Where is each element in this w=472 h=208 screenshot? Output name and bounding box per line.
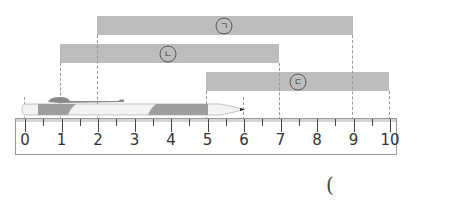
ruler-label-5: 5 <box>203 131 213 149</box>
ruler-tick <box>153 119 154 126</box>
ruler: 0 1 2 3 4 5 6 7 8 9 10 <box>15 118 397 155</box>
ruler-label-10: 10 <box>380 131 399 149</box>
ruler-top-band <box>16 119 396 122</box>
bar-label-nieun: ㄴ <box>160 45 177 62</box>
ruler-label-6: 6 <box>239 131 249 149</box>
bar-label-giyeok: ㄱ <box>216 17 233 34</box>
ruler-label-7: 7 <box>276 131 286 149</box>
guide-line-9 <box>352 35 353 120</box>
ruler-tick <box>299 119 300 126</box>
pen-icon <box>20 94 250 118</box>
ruler-tick <box>80 119 81 126</box>
guide-line-7 <box>279 63 280 120</box>
ruler-label-0: 0 <box>20 131 30 149</box>
ruler-label-3: 3 <box>130 131 140 149</box>
ruler-label-2: 2 <box>93 131 103 149</box>
ruler-tick <box>226 119 227 126</box>
answer-blank: ( <box>326 173 334 197</box>
bar-digeut: ㄷ <box>206 72 389 91</box>
ruler-tick <box>372 119 373 126</box>
bar-nieun: ㄴ <box>60 44 279 63</box>
ruler-tick <box>189 119 190 126</box>
ruler-tick <box>116 119 117 126</box>
ruler-tick <box>335 119 336 126</box>
ruler-tick <box>262 119 263 126</box>
ruler-label-4: 4 <box>166 131 176 149</box>
bar-giyeok: ㄱ <box>97 16 353 35</box>
ruler-label-8: 8 <box>312 131 322 149</box>
bar-label-digeut: ㄷ <box>290 73 307 90</box>
ruler-label-1: 1 <box>57 131 67 149</box>
ruler-tick <box>43 119 44 126</box>
ruler-label-9: 9 <box>349 131 359 149</box>
guide-line-10 <box>389 91 390 120</box>
